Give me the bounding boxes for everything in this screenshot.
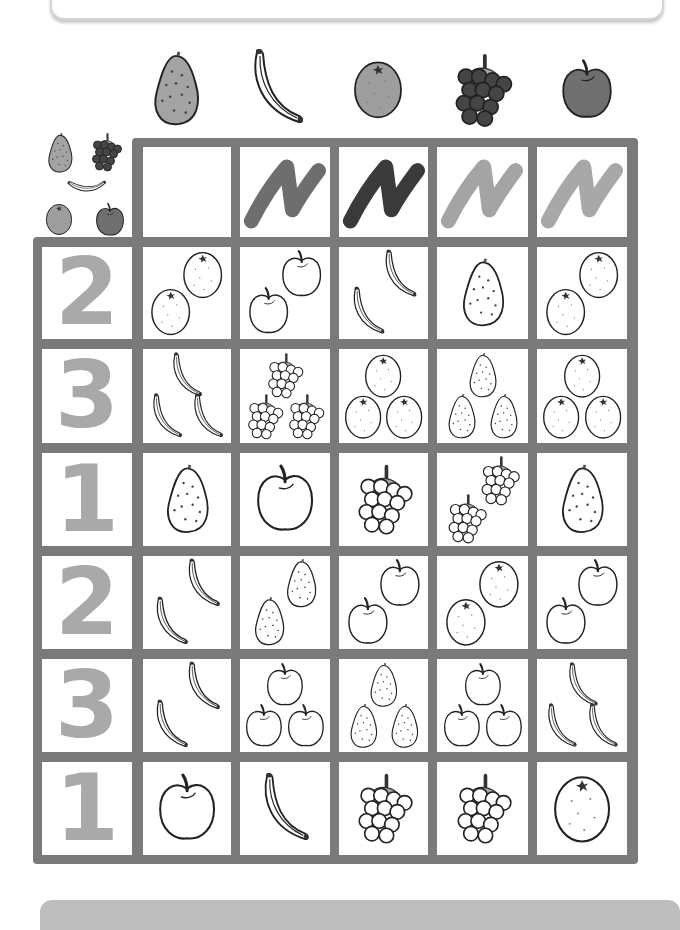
- number-cell: 2: [42, 556, 132, 649]
- fruit-count-cell[interactable]: [143, 762, 231, 855]
- color-swatch-cell: [240, 147, 330, 237]
- grapes-icon: [264, 352, 305, 399]
- number-cell: 2: [42, 247, 132, 339]
- grapes-icon: [244, 393, 285, 440]
- grapes-icon: [444, 493, 489, 544]
- scribble-icon: [539, 155, 623, 231]
- orange-icon: [551, 772, 613, 845]
- banana-icon: [585, 703, 620, 750]
- number-cell: 1: [42, 762, 132, 855]
- count-number: 1: [42, 453, 132, 546]
- scribble-icon: [439, 155, 523, 231]
- fruit-count-cell[interactable]: [537, 762, 627, 855]
- legend-pear-icon: [44, 132, 76, 174]
- banana-icon: [258, 772, 312, 845]
- number-cell: 1: [42, 453, 132, 546]
- apple-icon: [254, 463, 316, 536]
- fruit-count-cell[interactable]: [537, 556, 627, 649]
- banana-icon: [565, 662, 600, 709]
- fruit-count-cell[interactable]: [240, 659, 330, 752]
- orange-icon: [444, 596, 488, 647]
- fruit-count-cell[interactable]: [437, 349, 528, 443]
- orange-icon: [562, 352, 602, 399]
- banana-icon: [544, 703, 579, 750]
- scribble-icon: [242, 155, 326, 231]
- pear-icon: [444, 393, 479, 440]
- header-grapes-icon: [442, 52, 522, 128]
- orange-icon: [541, 393, 581, 440]
- orange-icon: [544, 286, 587, 337]
- count-number: 1: [42, 762, 132, 855]
- fruit-count-cell[interactable]: [437, 659, 528, 752]
- fruit-count-cell[interactable]: [143, 349, 231, 443]
- fruit-count-cell[interactable]: [339, 762, 428, 855]
- pear-icon: [160, 463, 214, 536]
- fruit-count-cell[interactable]: [240, 556, 330, 649]
- pear-icon: [486, 393, 521, 440]
- grapes-icon: [352, 463, 415, 536]
- header-apple-icon: [558, 58, 616, 122]
- number-cell: 3: [42, 349, 132, 443]
- count-number: 2: [42, 556, 132, 649]
- orange-icon: [384, 393, 424, 440]
- fruit-count-cell[interactable]: [143, 556, 231, 649]
- top-banner: [50, 0, 664, 20]
- color-swatch-cell: [537, 147, 627, 237]
- legend-orange-icon: [44, 202, 74, 236]
- banana-icon: [169, 352, 204, 399]
- fruit-count-cell[interactable]: [437, 762, 528, 855]
- fruit-count-cell[interactable]: [240, 247, 330, 339]
- color-swatch-cell: [339, 147, 428, 237]
- color-swatch-cell: [437, 147, 528, 237]
- legend-apple-icon: [94, 202, 126, 238]
- fruit-count-cell[interactable]: [240, 349, 330, 443]
- banana-icon: [152, 699, 190, 750]
- apple-icon: [265, 662, 305, 709]
- fruit-count-cell[interactable]: [143, 453, 231, 546]
- bottom-banner: [40, 900, 680, 930]
- apple-icon: [544, 596, 588, 647]
- header-banana-icon: [238, 48, 316, 128]
- fruit-count-cell[interactable]: [537, 247, 627, 339]
- pear-icon: [555, 463, 609, 536]
- fruit-count-cell[interactable]: [240, 762, 330, 855]
- banana-icon: [349, 286, 387, 337]
- fruit-count-cell[interactable]: [339, 659, 428, 752]
- apple-icon: [247, 286, 290, 337]
- fruit-legend: [40, 128, 132, 240]
- fruit-count-cell[interactable]: [537, 349, 627, 443]
- count-number: 2: [42, 247, 132, 339]
- fruit-count-cell[interactable]: [437, 453, 528, 546]
- fruit-count-cell[interactable]: [339, 453, 428, 546]
- apple-icon: [286, 703, 326, 750]
- header-orange-icon: [350, 58, 406, 120]
- fruit-count-cell[interactable]: [437, 247, 528, 339]
- fruit-count-cell[interactable]: [537, 659, 627, 752]
- count-number: 3: [42, 349, 132, 443]
- orange-icon: [363, 352, 403, 399]
- apple-icon: [346, 596, 390, 647]
- pear-icon: [346, 703, 381, 750]
- pear-icon: [366, 662, 401, 709]
- fruit-count-cell[interactable]: [537, 453, 627, 546]
- banana-icon: [190, 393, 225, 440]
- pear-icon: [250, 596, 288, 647]
- apple-icon: [244, 703, 284, 750]
- fruit-count-cell[interactable]: [339, 556, 428, 649]
- fruit-count-cell[interactable]: [143, 659, 231, 752]
- fruit-count-cell[interactable]: [143, 247, 231, 339]
- apple-icon: [484, 703, 524, 750]
- orange-icon: [149, 286, 192, 337]
- header-pear-icon: [145, 50, 207, 128]
- pear-icon: [387, 703, 422, 750]
- orange-icon: [343, 393, 383, 440]
- fruit-count-cell[interactable]: [339, 247, 428, 339]
- banana-icon: [152, 596, 190, 647]
- fruit-count-cell[interactable]: [339, 349, 428, 443]
- number-cell: 3: [42, 659, 132, 752]
- apple-icon: [156, 772, 218, 845]
- apple-icon: [463, 662, 503, 709]
- banana-icon: [149, 393, 184, 440]
- fruit-count-cell[interactable]: [240, 453, 330, 546]
- fruit-count-cell[interactable]: [437, 556, 528, 649]
